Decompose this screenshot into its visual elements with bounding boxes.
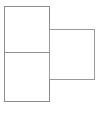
- right-rectangle: [50, 30, 95, 80]
- diagram-canvas: [0, 0, 98, 115]
- shapes-svg: [0, 0, 98, 115]
- left-rectangle: [5, 7, 50, 102]
